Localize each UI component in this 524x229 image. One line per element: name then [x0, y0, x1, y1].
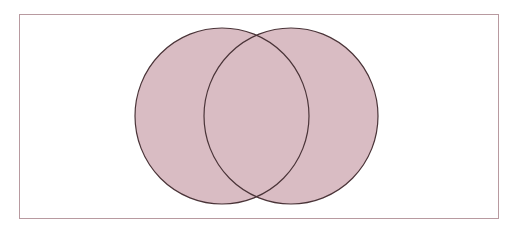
set-b-fill: [204, 28, 378, 204]
venn-diagram: [0, 0, 524, 229]
shaded-union-region: [135, 28, 378, 204]
